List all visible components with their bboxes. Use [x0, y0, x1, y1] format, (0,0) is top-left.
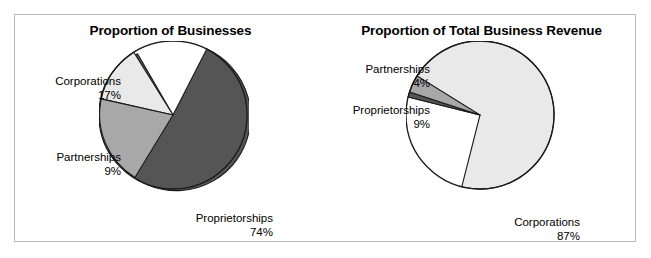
pie-label-proprietorships-revenue: Proprietorships 9% — [327, 103, 430, 131]
pie-label-percent: 87% — [468, 229, 580, 243]
chart-title-revenue: Proportion of Total Business Revenue — [326, 23, 637, 38]
pie-label-name: Partnerships — [31, 150, 121, 164]
figure-frame: Proportion of Businesses Corporations 17… — [14, 14, 636, 242]
pie-label-percent: 4% — [336, 76, 430, 90]
chart-title-businesses: Proportion of Businesses — [15, 23, 326, 38]
pie-label-percent: 9% — [327, 117, 430, 131]
pie-label-name: Partnerships — [336, 62, 430, 76]
pie-label-partnerships-businesses: Partnerships 9% — [31, 150, 121, 178]
pie-label-partnerships-revenue: Partnerships 4% — [336, 62, 430, 90]
pie-label-name: Proprietorships — [327, 103, 430, 117]
pie-label-proprietorships-businesses: Proprietorships 74% — [161, 211, 273, 239]
pie-label-percent: 9% — [31, 164, 121, 178]
pie-chart-businesses — [99, 41, 249, 193]
chart-panel-businesses: Proportion of Businesses Corporations 17… — [15, 15, 326, 243]
pie-label-corporations-revenue: Corporations 87% — [468, 215, 580, 243]
pie-label-percent: 74% — [161, 225, 273, 239]
pie-label-percent: 17% — [31, 88, 121, 102]
pie-label-name: Corporations — [468, 215, 580, 229]
pie-label-name: Corporations — [31, 74, 121, 88]
pie-label-corporations-businesses: Corporations 17% — [31, 74, 121, 102]
chart-panel-revenue: Proportion of Total Business Revenue Par… — [326, 15, 637, 243]
pie-label-name: Proprietorships — [161, 211, 273, 225]
figure-root: Proportion of Businesses Corporations 17… — [0, 0, 651, 258]
